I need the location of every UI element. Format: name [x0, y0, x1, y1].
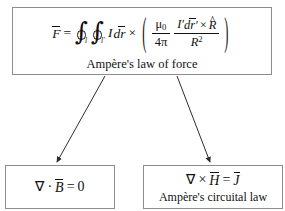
nabla-operator-icon: ∇	[35, 180, 44, 194]
contour-integral-2: ∫ l'	[91, 20, 105, 46]
current-symbol: I	[108, 26, 113, 40]
dot-product-operator: ·	[47, 180, 52, 194]
equals-sign: =	[63, 26, 71, 40]
arrow-to-ampere-circuital-law	[177, 76, 210, 162]
contour-integral-icon: ∫ l'	[91, 20, 104, 46]
contour-integral-1: ∫ l	[75, 20, 89, 46]
vector-dr-prime: dr′	[184, 17, 198, 31]
equals-sign: =	[222, 173, 230, 187]
vector-H: H	[209, 172, 219, 188]
fraction-denominator: R2	[188, 35, 206, 48]
node-caption-ampere-law-of-force: Ampère's law of force	[87, 58, 198, 71]
formula-ampere-circuital-law: ∇ × H = J	[186, 172, 239, 188]
paren-open: (	[142, 13, 146, 52]
vector-B: B	[55, 179, 64, 195]
vector-J: J	[233, 172, 239, 188]
vector-F: F	[52, 25, 60, 40]
fraction-mu0-over-4pi: μ0 4π	[152, 18, 170, 48]
fraction-numerator: μ0	[152, 18, 169, 32]
fraction-numerator: I′dr′×^R	[174, 17, 219, 31]
paren-close: )	[225, 13, 229, 52]
vector-dr: dr	[114, 25, 126, 40]
formula-gauss-law-magnetism: ∇ · B = 0	[35, 179, 84, 195]
cross-product-operator: ×	[198, 173, 206, 187]
contour-integral-icon: ∫ l	[75, 20, 88, 46]
node-caption-ampere-circuital-law: Ampère's circuital law	[159, 191, 267, 204]
rhs-value: 0	[78, 180, 85, 194]
formula-expression: F = ∫ l ∫ l' I dr	[52, 17, 232, 48]
fraction-source-term: I′dr′×^R R2	[174, 17, 219, 48]
node-ampere-law-of-force[interactable]: F = ∫ l ∫ l' I dr	[12, 7, 272, 75]
fraction-denominator: 4π	[152, 36, 170, 48]
nabla-operator-icon: ∇	[186, 173, 195, 187]
diagram-canvas: F = ∫ l ∫ l' I dr	[0, 0, 285, 211]
node-ampere-circuital-law[interactable]: ∇ × H = J Ampère's circuital law	[143, 165, 283, 209]
cross-product-operator: ×	[129, 26, 137, 40]
unit-vector-R: ^R	[209, 19, 217, 31]
formula-ampere-law-of-force: F = ∫ l ∫ l' I dr	[13, 15, 271, 51]
equals-sign: =	[67, 180, 75, 194]
node-gauss-law-magnetism[interactable]: ∇ · B = 0	[5, 165, 115, 209]
arrow-to-gauss-law-magnetism	[57, 76, 105, 162]
